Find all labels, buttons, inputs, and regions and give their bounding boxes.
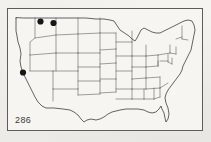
figure-plate: 286: [0, 0, 211, 142]
national-coastline: [16, 18, 195, 122]
caption-strip: [7, 133, 203, 142]
map-frame: 286: [7, 8, 203, 131]
occurrence-dot: [50, 20, 56, 26]
us-distribution-map: [8, 9, 204, 132]
occurrence-dots: [20, 18, 57, 75]
plate-number: 286: [15, 116, 31, 125]
occurrence-dot: [20, 69, 26, 75]
occurrence-dot: [37, 18, 43, 24]
